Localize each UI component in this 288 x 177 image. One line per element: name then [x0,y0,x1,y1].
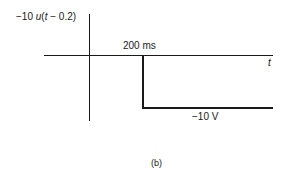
level-label: −10 V [192,112,218,122]
function-label-coef: −10 [16,11,36,22]
time-marker-label: 200 ms [123,41,156,51]
figure-caption: (b) [151,159,162,168]
function-label: −10 u(t − 0.2) [16,12,76,22]
vertical-axis [89,14,90,121]
step-level-line [142,107,273,109]
horizontal-axis [44,55,273,56]
step-drop-line [142,55,144,109]
t-axis-label: t [268,58,271,68]
function-label-rest: − 0.2) [47,11,76,22]
